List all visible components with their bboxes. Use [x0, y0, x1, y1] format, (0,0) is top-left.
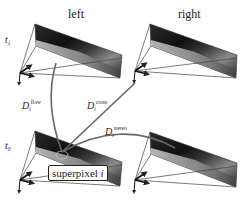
row-label-t0: t0	[5, 140, 11, 155]
frame-left-t1	[19, 24, 122, 84]
row-label-t1: t1	[5, 34, 11, 49]
stereo-flow-diagram: left right t1 t0 Diflow Dicross Distereo…	[0, 0, 242, 201]
edge-label-flow: Diflow	[22, 96, 41, 115]
edge-label-stereo: Distereo	[105, 122, 127, 141]
frame-right-t1	[134, 24, 237, 82]
column-label-left: left	[68, 8, 84, 20]
column-label-right: right	[178, 8, 201, 20]
frame-right-t0	[134, 132, 237, 192]
cross-edge	[62, 83, 135, 152]
edge-label-cross: Dicross	[87, 96, 107, 115]
superpixel-label: superpixel i	[48, 165, 108, 181]
